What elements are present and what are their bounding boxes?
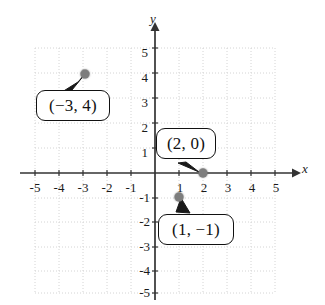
callout-label-1-minus1: (1, −1) [158, 214, 234, 245]
callout-label-minus3-4: (−3, 4) [36, 90, 110, 121]
coordinate-plane-figure: -5 -4 -3 -2 -1 1 2 3 4 5 5 4 3 2 1 -1 -2… [0, 0, 325, 305]
callout-label-2-0: (2, 0) [156, 128, 216, 159]
callout-boxes-layer: (−3, 4) (2, 0) (1, −1) [0, 0, 325, 305]
